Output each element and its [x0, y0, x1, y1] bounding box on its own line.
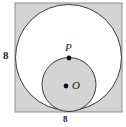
point-p-dot: [67, 56, 72, 61]
geometry-figure: 8 8 P O: [0, 0, 126, 127]
small-tangent-circle: [42, 58, 96, 112]
square-side-label-left: 8: [3, 50, 9, 61]
geometry-canvas: [0, 0, 126, 127]
point-p-label: P: [65, 42, 72, 53]
point-o-dot: [64, 84, 69, 89]
square-side-label-bottom: 8: [63, 115, 68, 124]
point-o-label: O: [72, 80, 80, 91]
